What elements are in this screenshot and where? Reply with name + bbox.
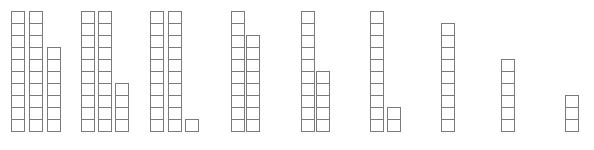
ten-rod bbox=[11, 11, 23, 132]
unit-cube bbox=[150, 119, 164, 132]
unit-cube bbox=[301, 119, 315, 132]
unit-cube bbox=[115, 119, 129, 132]
ten-rod bbox=[98, 11, 110, 132]
ten-rod bbox=[168, 11, 180, 132]
base-ten-blocks-diagram bbox=[0, 0, 594, 150]
unit-cube bbox=[29, 119, 43, 132]
unit-cube bbox=[501, 119, 515, 132]
unit-cubes-column bbox=[246, 35, 258, 132]
unit-cube bbox=[441, 119, 455, 132]
unit-cube bbox=[565, 119, 579, 132]
unit-cube bbox=[168, 119, 182, 132]
ten-rod bbox=[231, 11, 243, 132]
unit-cube bbox=[231, 119, 245, 132]
ten-rod bbox=[301, 11, 313, 132]
unit-cube bbox=[98, 119, 112, 132]
unit-cube bbox=[387, 119, 401, 132]
unit-cube bbox=[246, 119, 260, 132]
ten-rod bbox=[81, 11, 93, 132]
unit-cube bbox=[81, 119, 95, 132]
unit-cube bbox=[47, 119, 61, 132]
unit-cube bbox=[11, 119, 25, 132]
ten-rod bbox=[370, 11, 382, 132]
unit-cubes-column bbox=[185, 119, 197, 132]
unit-cube bbox=[316, 119, 330, 132]
ten-rod bbox=[150, 11, 162, 132]
unit-cube bbox=[370, 119, 384, 132]
unit-cubes-column bbox=[441, 23, 453, 132]
unit-cubes-column bbox=[47, 47, 59, 132]
unit-cubes-column bbox=[565, 95, 577, 132]
unit-cube bbox=[185, 119, 199, 132]
ten-rod bbox=[29, 11, 41, 132]
unit-cubes-column bbox=[115, 83, 127, 132]
unit-cubes-column bbox=[501, 59, 513, 132]
unit-cubes-column bbox=[387, 107, 399, 132]
unit-cubes-column bbox=[316, 71, 328, 132]
